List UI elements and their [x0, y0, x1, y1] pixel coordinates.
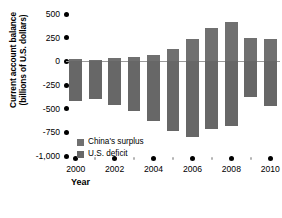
bar-us-deficit — [244, 61, 257, 97]
x-axis-tick-label: 2000 — [66, 164, 85, 174]
y-axis-tick-label: -500 — [43, 104, 60, 114]
bar-china-surplus — [244, 38, 257, 61]
bar-us-deficit — [205, 61, 218, 128]
y-axis-tick: -250 — [64, 83, 69, 88]
legend-label-surplus: China's surplus — [88, 138, 144, 146]
y-axis-title-line-1: Current account balance — [8, 0, 18, 130]
bar-us-deficit — [128, 61, 141, 110]
y-axis-tick: 500 — [64, 12, 69, 17]
x-axis-tick — [151, 156, 156, 161]
bar-us-deficit — [69, 61, 82, 100]
x-axis-minor-tick — [172, 157, 175, 160]
y-axis-tick-label: 0 — [55, 56, 60, 66]
x-axis-minor-tick — [250, 157, 253, 160]
y-axis-title: Current account balance (billions of U.S… — [8, 0, 36, 130]
legend-label-deficit: U.S. deficit — [88, 150, 128, 158]
y-axis-tick-label: -1,000 — [36, 151, 60, 161]
bar-china-surplus — [167, 49, 180, 61]
bar-us-deficit — [264, 61, 277, 105]
y-axis-tick-label: 500 — [46, 9, 60, 19]
legend-swatch-surplus — [77, 139, 84, 146]
bar-us-deficit — [167, 61, 180, 131]
bar-us-deficit — [225, 61, 238, 125]
x-axis-tick — [190, 156, 195, 161]
legend-item-deficit: U.S. deficit — [77, 148, 144, 160]
chart-legend: China's surplus U.S. deficit — [77, 136, 144, 160]
y-axis-tick: -500 — [64, 106, 69, 111]
bar-china-surplus — [264, 39, 277, 62]
bar-china-surplus — [186, 39, 199, 61]
current-account-balance-chart: Current account balance (billions of U.S… — [0, 0, 282, 218]
x-axis-tick-label: 2004 — [144, 164, 163, 174]
x-axis-tick-label: 2002 — [105, 164, 124, 174]
legend-swatch-deficit — [77, 151, 84, 158]
bar-us-deficit — [147, 61, 160, 121]
x-axis-tick-label: 2006 — [183, 164, 202, 174]
y-axis-tick: -750 — [64, 130, 69, 135]
legend-item-surplus: China's surplus — [77, 136, 144, 148]
plot-area: 5002500-250-500-750-1,000 — [66, 14, 280, 156]
x-axis-tick-label: 2008 — [222, 164, 241, 174]
bar-us-deficit — [89, 61, 102, 98]
x-axis-tick — [229, 156, 234, 161]
bar-china-surplus — [225, 22, 238, 61]
bar-us-deficit — [108, 61, 121, 105]
x-axis-title: Year — [71, 177, 90, 187]
y-axis-tick: 250 — [64, 35, 69, 40]
y-axis-tick-label: -250 — [43, 80, 60, 90]
bar-china-surplus — [205, 28, 218, 62]
x-axis-tick-label: 2010 — [261, 164, 280, 174]
x-axis-tick — [268, 156, 273, 161]
y-axis-title-line-2: (billions of U.S. dollars) — [18, 0, 28, 130]
y-axis-tick-label: -750 — [43, 127, 60, 137]
x-axis-minor-tick — [211, 157, 214, 160]
bar-us-deficit — [186, 61, 199, 137]
y-axis-tick-label: 250 — [46, 33, 60, 43]
